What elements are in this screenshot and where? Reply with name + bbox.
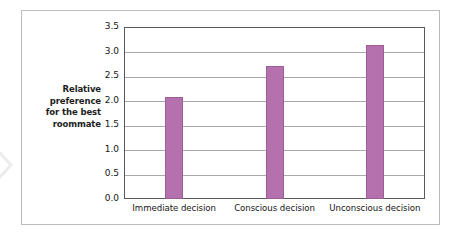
gridline (125, 52, 424, 53)
y-axis-title: Relative preference for the best roommat… (26, 84, 101, 130)
x-axis-tick-label: Unconscious decision (325, 203, 425, 213)
y-axis-tick-label: 2.0 (97, 95, 119, 105)
y-axis-tick-label: 3.5 (97, 21, 119, 31)
gridline (125, 175, 424, 176)
y-axis-tick-label: 0.5 (97, 168, 119, 178)
y-axis-title-line-2: preference (26, 96, 101, 108)
y-axis-tick-label: 3.0 (97, 46, 119, 56)
y-axis-tick-label: 0.0 (97, 193, 119, 203)
y-axis-tick-label: 2.5 (97, 70, 119, 80)
x-axis-tick-label: Conscious decision (224, 203, 324, 213)
plot-area (124, 27, 425, 199)
gridline (125, 101, 424, 102)
y-axis-title-line-4: roommate (26, 119, 101, 131)
scan-edge-artifact (0, 150, 14, 180)
bar-chart-figure: Relative preference for the best roommat… (0, 0, 454, 239)
x-axis-tick-label: Immediate decision (124, 203, 224, 213)
y-axis-title-line-3: for the best (26, 107, 101, 119)
y-axis-tick-label: 1.5 (97, 119, 119, 129)
y-axis-title-line-1: Relative (26, 84, 101, 96)
gridline (125, 150, 424, 151)
gridline (125, 77, 424, 78)
gridline (125, 126, 424, 127)
y-axis-tick-label: 1.0 (97, 144, 119, 154)
